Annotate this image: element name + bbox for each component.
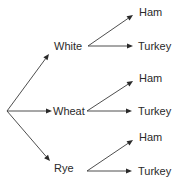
edge-root-wheat-arrowhead-icon bbox=[46, 108, 52, 113]
bread-label-wheat: Wheat bbox=[53, 105, 85, 117]
edge-rye-ham-line bbox=[87, 143, 128, 171]
bread-label-white: White bbox=[54, 40, 82, 52]
sandwich-tree-diagram: White Wheat Rye Ham Turkey Ham Turkey Ha… bbox=[0, 0, 172, 180]
edge-root-white-arrowhead-icon bbox=[43, 54, 49, 60]
filling-label-rye-turkey: Turkey bbox=[138, 165, 172, 177]
edge-rye-turkey-arrowhead-icon bbox=[126, 168, 132, 173]
edge-white-ham-arrowhead-icon bbox=[127, 15, 133, 21]
filling-label-white-turkey: Turkey bbox=[138, 40, 172, 52]
labels: White Wheat Rye Ham Turkey Ham Turkey Ha… bbox=[53, 6, 172, 177]
edges bbox=[7, 15, 133, 174]
filling-label-white-ham: Ham bbox=[139, 6, 162, 18]
bread-label-rye: Rye bbox=[54, 162, 74, 174]
edge-wheat-ham-line bbox=[87, 84, 128, 111]
filling-label-wheat-turkey: Turkey bbox=[138, 105, 172, 117]
edge-wheat-turkey-arrowhead-icon bbox=[126, 108, 132, 113]
edge-rye-ham-arrowhead-icon bbox=[127, 140, 133, 146]
edge-wheat-ham-arrowhead-icon bbox=[127, 81, 133, 86]
filling-label-wheat-ham: Ham bbox=[139, 72, 162, 84]
edge-white-turkey-arrowhead-icon bbox=[127, 43, 133, 48]
edge-root-rye-line bbox=[7, 111, 46, 156]
filling-label-rye-ham: Ham bbox=[139, 131, 162, 143]
edge-white-ham-line bbox=[88, 18, 128, 46]
edge-root-white-line bbox=[7, 59, 45, 111]
